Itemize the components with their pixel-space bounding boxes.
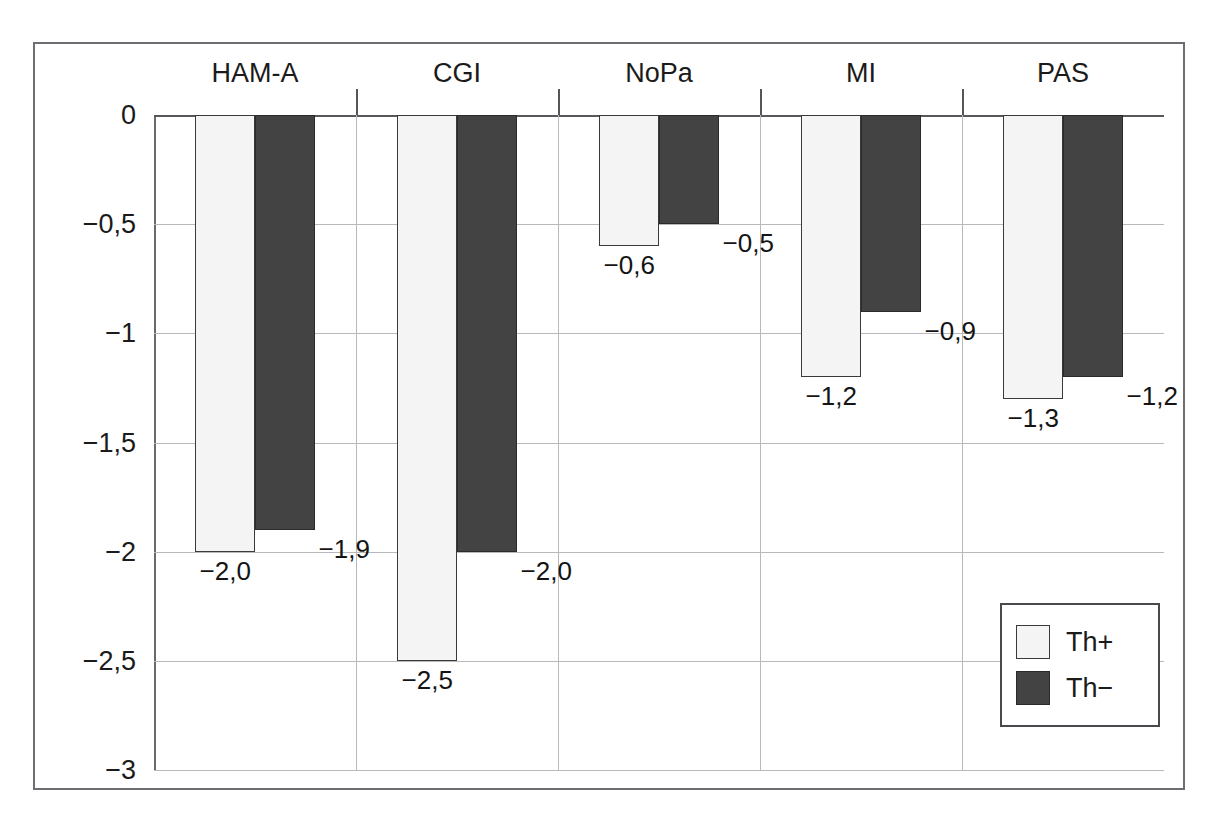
bar-value-label: −0,9 — [925, 318, 976, 344]
bar-cgi-series-1 — [457, 115, 517, 552]
bar-value-label: −0,5 — [723, 230, 774, 256]
chart-legend: Th+ Th− — [1000, 603, 1160, 727]
bar-value-label: −2,5 — [402, 667, 453, 693]
gridline — [154, 552, 1164, 553]
y-axis-tick-label: −2 — [105, 538, 136, 565]
y-axis-tick-label: −1 — [105, 320, 136, 347]
bar-ham-a-series-1 — [255, 115, 315, 530]
group-separator — [962, 115, 963, 770]
bar-value-label: −1,9 — [319, 536, 370, 562]
group-separator — [558, 115, 559, 770]
legend-swatch-th-plus — [1016, 625, 1050, 659]
group-tick-mark — [558, 89, 560, 115]
bar-value-label: −0,6 — [604, 252, 655, 278]
category-label-nopa: NoPa — [625, 60, 693, 87]
y-axis-tick-label: −1,5 — [83, 429, 136, 456]
bar-cgi-series-0 — [397, 115, 457, 661]
chart-frame: 0−0,5−1−1,5−2−2,5−3 HAM-ACGINoPaMIPAS −2… — [33, 42, 1185, 790]
y-axis-tick-label: −3 — [105, 757, 136, 784]
bar-value-label: −2,0 — [521, 558, 572, 584]
group-tick-mark — [356, 89, 358, 115]
category-label-cgi: CGI — [433, 60, 481, 87]
bar-value-label: −2,0 — [200, 558, 251, 584]
group-separator — [760, 115, 761, 770]
category-label-pas: PAS — [1037, 60, 1089, 87]
group-tick-mark — [962, 89, 964, 115]
category-label-ham-a: HAM-A — [212, 60, 299, 87]
legend-label-th-plus: Th+ — [1066, 629, 1113, 656]
y-axis-tick-label: 0 — [121, 102, 136, 129]
bar-nopa-series-0 — [599, 115, 659, 246]
bar-nopa-series-1 — [659, 115, 719, 224]
bar-mi-series-0 — [801, 115, 861, 377]
y-axis-tick-label: −2,5 — [83, 647, 136, 674]
bar-value-label: −1,2 — [1127, 383, 1178, 409]
bar-value-label: −1,2 — [806, 383, 857, 409]
bar-value-label: −1,3 — [1008, 405, 1059, 431]
bar-pas-series-1 — [1063, 115, 1123, 377]
category-label-mi: MI — [846, 60, 876, 87]
bar-pas-series-0 — [1003, 115, 1063, 399]
legend-label-th-minus: Th− — [1066, 675, 1113, 702]
legend-item-th-plus: Th+ — [1016, 619, 1142, 665]
y-axis-tick-label: −0,5 — [83, 211, 136, 238]
gridline — [154, 770, 1164, 771]
legend-item-th-minus: Th− — [1016, 665, 1142, 711]
legend-swatch-th-minus — [1016, 671, 1050, 705]
bar-mi-series-1 — [861, 115, 921, 312]
chart-figure: 0−0,5−1−1,5−2−2,5−3 HAM-ACGINoPaMIPAS −2… — [0, 0, 1220, 828]
group-separator — [356, 115, 357, 770]
group-tick-mark — [760, 89, 762, 115]
bar-ham-a-series-0 — [195, 115, 255, 552]
